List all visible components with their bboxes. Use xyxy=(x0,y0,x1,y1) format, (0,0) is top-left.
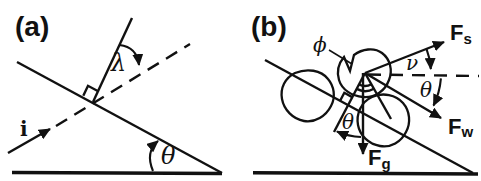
fs-vector-arrow xyxy=(365,42,444,73)
horizontal-dashed-line xyxy=(368,75,479,77)
grain-bottom-right xyxy=(358,95,410,147)
lambda-label: λ xyxy=(110,49,126,77)
nu-arc-arrow xyxy=(426,49,430,69)
panel-a: (a) θ i λ xyxy=(8,11,222,174)
fw-label: Fw xyxy=(448,114,473,140)
grain-left xyxy=(282,70,334,121)
incline-line-a xyxy=(17,62,222,173)
fs-label: Fs xyxy=(450,20,472,47)
nu-label: ν xyxy=(406,51,418,75)
phi-arc-outer xyxy=(357,89,374,91)
theta-flow-arc-arrow xyxy=(434,78,441,105)
fg-label: Fg xyxy=(368,145,391,172)
figure-canvas: (a) θ i λ (b) xyxy=(0,0,481,181)
theta-flow-label: θ xyxy=(420,78,432,102)
panel-b: (b) ϕ Fs xyxy=(251,11,479,174)
ground-line-b xyxy=(253,173,478,174)
theta-arc-arrow-a xyxy=(150,141,158,171)
phi-arc-inner xyxy=(359,84,371,86)
panel-a-label: (a) xyxy=(15,11,49,42)
ground-line-a xyxy=(12,173,222,174)
theta-slope-label: θ xyxy=(342,110,354,134)
phi-label: ϕ xyxy=(313,33,327,57)
panel-b-label: (b) xyxy=(251,11,287,42)
i-vector-arrow xyxy=(8,129,50,153)
theta-label-a: θ xyxy=(161,142,176,170)
force-diagram-figure: (a) θ i λ (b) xyxy=(0,0,481,181)
i-label: i xyxy=(20,117,28,141)
